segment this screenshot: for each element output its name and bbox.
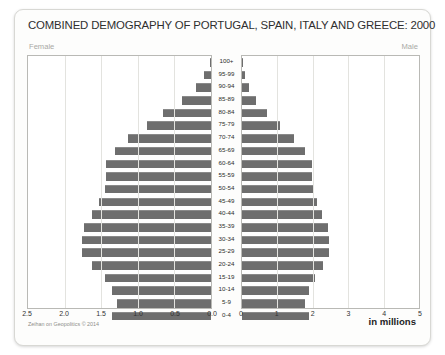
female-bars — [28, 56, 211, 308]
bar-male — [242, 134, 294, 143]
gridline — [138, 56, 139, 308]
axis-tick-label: 5 — [418, 310, 422, 317]
table-row — [242, 259, 419, 272]
table-row — [28, 246, 211, 259]
table-row — [28, 94, 211, 107]
table-row — [28, 221, 211, 234]
male-panel — [241, 55, 420, 309]
table-row — [242, 221, 419, 234]
axis-tick-label: 0.0 — [207, 310, 217, 317]
bar-female — [196, 83, 211, 92]
axis-tick-label: 2 — [311, 310, 315, 317]
age-group-label: 5-9 — [212, 296, 241, 309]
table-row — [242, 170, 419, 183]
bar-female — [117, 299, 211, 308]
bar-female — [163, 109, 211, 118]
bar-male — [242, 121, 280, 130]
chart-card: COMBINED DEMOGRAPHY OF PORTUGAL, SPAIN, … — [14, 9, 431, 346]
bar-female — [182, 96, 211, 105]
age-group-label: 20-24 — [212, 258, 241, 271]
bar-female — [210, 58, 211, 67]
female-side-label: Female — [29, 42, 54, 51]
pyramid-plot: Female Male 100+95-9990-9485-8980-8475-7… — [27, 41, 420, 309]
gridline — [348, 56, 349, 308]
bar-male — [242, 286, 309, 295]
table-row — [28, 158, 211, 171]
table-row — [28, 196, 211, 209]
table-row — [28, 132, 211, 145]
table-row — [28, 81, 211, 94]
axis-tick-label: 1 — [275, 310, 279, 317]
bar-female — [92, 210, 211, 219]
bar-female — [128, 134, 211, 143]
gridline — [101, 56, 102, 308]
axis-tick-label: 3 — [346, 310, 350, 317]
table-row — [28, 69, 211, 82]
bar-male — [242, 223, 328, 232]
gridline — [384, 56, 385, 308]
axis-tick-label: 0.5 — [170, 310, 180, 317]
age-group-label: 60-64 — [212, 157, 241, 170]
table-row — [242, 107, 419, 120]
table-row — [242, 145, 419, 158]
age-group-label: 35-39 — [212, 220, 241, 233]
table-row — [28, 284, 211, 297]
table-row — [242, 56, 419, 69]
bar-male — [242, 96, 256, 105]
table-row — [242, 234, 419, 247]
bar-female — [204, 71, 211, 80]
table-row — [242, 69, 419, 82]
age-group-label: 70-74 — [212, 131, 241, 144]
table-row — [242, 94, 419, 107]
age-group-label: 65-69 — [212, 144, 241, 157]
table-row — [28, 56, 211, 69]
age-group-label: 55-59 — [212, 169, 241, 182]
poster-background: COMBINED DEMOGRAPHY OF PORTUGAL, SPAIN, … — [0, 0, 445, 355]
bar-female — [99, 198, 211, 207]
age-group-label: 85-89 — [212, 93, 241, 106]
axis-tick-label: 0 — [239, 310, 243, 317]
gridline — [174, 56, 175, 308]
table-row — [28, 170, 211, 183]
axis-tick-label: 2.0 — [59, 310, 69, 317]
age-axis-labels: 100+95-9990-9485-8980-8475-7970-7465-696… — [212, 55, 241, 309]
table-row — [242, 196, 419, 209]
age-group-label: 10-14 — [212, 283, 241, 296]
bar-female — [105, 274, 211, 283]
gridline — [313, 56, 314, 308]
table-row — [242, 81, 419, 94]
age-group-label: 100+ — [212, 55, 241, 68]
table-row — [242, 246, 419, 259]
bar-male — [242, 198, 317, 207]
attribution-credit: Zeihan on Geopolitics © 2014 — [28, 321, 99, 327]
bar-male — [242, 109, 267, 118]
bar-male — [242, 58, 243, 67]
age-group-label: 25-29 — [212, 245, 241, 258]
table-row — [242, 208, 419, 221]
bar-male — [242, 248, 329, 257]
age-group-label: 45-49 — [212, 195, 241, 208]
table-row — [28, 119, 211, 132]
table-row — [28, 234, 211, 247]
male-bars — [242, 56, 419, 308]
age-group-label: 15-19 — [212, 271, 241, 284]
bar-female — [105, 185, 211, 194]
female-panel — [27, 55, 212, 309]
axis-tick-label: 2.5 — [22, 310, 32, 317]
bar-female — [112, 286, 211, 295]
table-row — [28, 272, 211, 285]
axis-tick-label: 1.5 — [96, 310, 106, 317]
bar-female — [147, 121, 211, 130]
bar-male — [242, 261, 323, 270]
age-group-label: 50-54 — [212, 182, 241, 195]
chart-title: COMBINED DEMOGRAPHY OF PORTUGAL, SPAIN, … — [28, 19, 420, 31]
table-row — [242, 158, 419, 171]
axis-tick-label: 1.0 — [133, 310, 143, 317]
bar-female — [106, 160, 211, 169]
age-group-label: 95-99 — [212, 68, 241, 81]
table-row — [242, 297, 419, 310]
age-group-label: 90-94 — [212, 80, 241, 93]
bar-male — [242, 71, 245, 80]
table-row — [242, 119, 419, 132]
bar-male — [242, 210, 322, 219]
